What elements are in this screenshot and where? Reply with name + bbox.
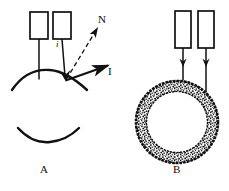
panel-b-probe-left <box>175 11 191 48</box>
figure-canvas: i N I A B <box>0 0 229 191</box>
diagram-svg <box>0 0 229 191</box>
panel-b-annulus-core <box>148 93 207 152</box>
panel-a-beam-label: I <box>108 66 112 77</box>
panel-a-incidence-angle-label: i <box>56 40 59 49</box>
panel-a-normal-label: N <box>98 14 106 25</box>
panel-b <box>130 11 226 171</box>
panel-b-probe-right <box>198 11 214 48</box>
panel-a-caption: A <box>40 164 48 175</box>
panel-a-beam-arrow <box>66 66 109 81</box>
panel-b-caption: B <box>173 164 180 175</box>
panel-a-probe-left <box>30 12 48 39</box>
panel-a-concave-surface <box>18 128 79 142</box>
panel-a-convex-surface <box>12 70 87 90</box>
panel-a-probe-right <box>53 12 71 39</box>
panel-a <box>12 12 108 142</box>
